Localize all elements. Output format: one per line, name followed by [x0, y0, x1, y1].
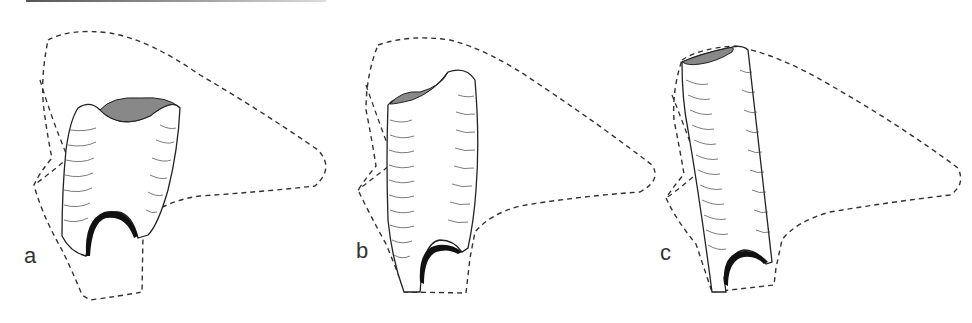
panel-b: b — [330, 0, 660, 323]
panel-a: a — [0, 0, 330, 323]
panel-label-c: c — [660, 240, 671, 266]
tooth-drawing-c — [660, 0, 972, 323]
tooth-drawing-a — [0, 0, 330, 323]
panel-label-b: b — [356, 238, 368, 264]
tooth-drawing-b — [330, 0, 660, 323]
panel-c: c — [660, 0, 972, 323]
panel-label-a: a — [24, 243, 36, 269]
